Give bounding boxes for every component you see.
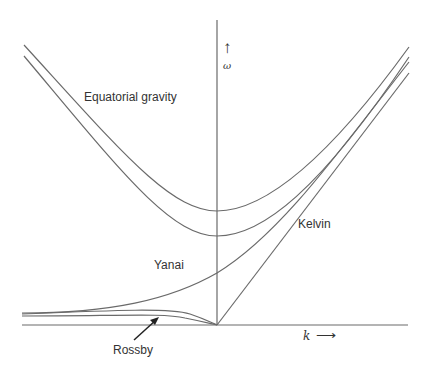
equatorial-gravity-label: Equatorial gravity: [84, 90, 177, 104]
dispersion-diagram: Equatorial gravity Kelvin Yanai Rossby ↑…: [0, 0, 429, 374]
kelvin-line: [217, 73, 409, 325]
diagram-canvas: [0, 0, 429, 374]
omega-arrow-icon: ↑: [223, 38, 232, 58]
yanai-curve: [22, 62, 409, 313]
yanai-label: Yanai: [154, 258, 184, 272]
rossby-pointer-arrow: [134, 320, 156, 340]
rossby-curve-1: [22, 310, 217, 325]
kelvin-label: Kelvin: [298, 217, 331, 231]
k-axis-label: k: [303, 329, 310, 343]
omega-axis-label: ω: [223, 60, 231, 71]
rossby-label: Rossby: [113, 343, 153, 357]
k-arrow-icon: ⟶: [316, 327, 336, 343]
rossby-curve-2: [22, 315, 217, 325]
